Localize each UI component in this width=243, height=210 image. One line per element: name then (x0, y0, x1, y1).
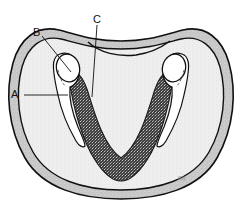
label-a: A (11, 89, 18, 100)
label-c: C (93, 14, 101, 25)
signature-mark: mj (177, 173, 185, 182)
figure-canvas: mj A B C (0, 0, 243, 210)
label-b: B (33, 27, 40, 38)
